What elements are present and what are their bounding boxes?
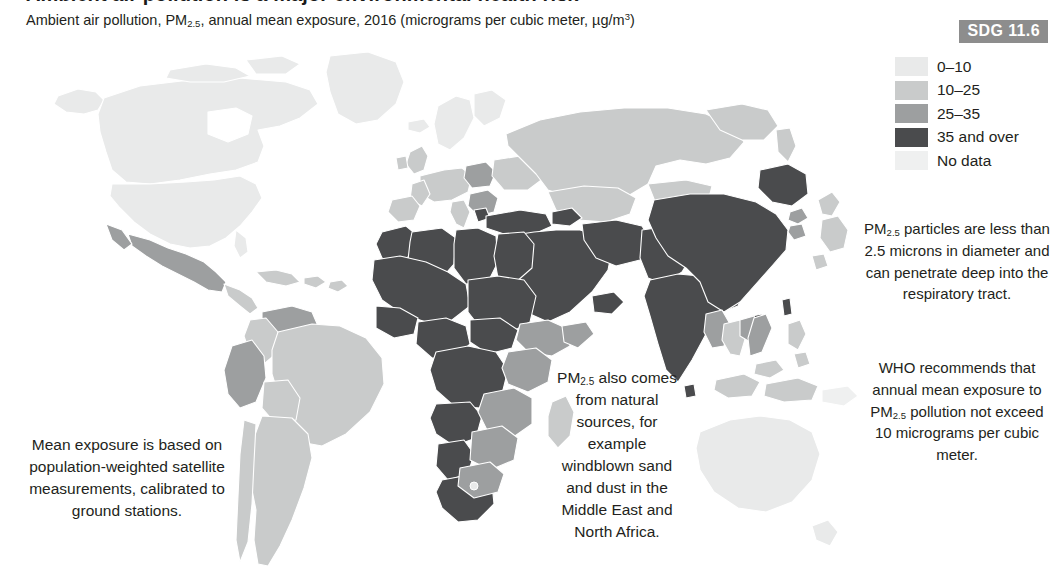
annotation-center-before: PM bbox=[557, 369, 580, 386]
legend-label-25-35: 25–35 bbox=[937, 105, 980, 123]
infographic-page: Ambient air pollution is a major environ… bbox=[0, 0, 1054, 578]
note-pm25-particles: PM2.5 particles are less than 2.5 micron… bbox=[860, 218, 1054, 305]
annotation-center-after: also comes from natural sources, for exa… bbox=[561, 369, 677, 540]
legend-label-10-25: 10–25 bbox=[937, 81, 980, 99]
region-southeast-asia bbox=[704, 310, 858, 406]
annotation-left: Mean exposure is based on population-wei… bbox=[14, 434, 240, 522]
world-choropleth-map[interactable]: Mean exposure is based on population-wei… bbox=[0, 34, 860, 578]
note2-subscript: 2.5 bbox=[893, 410, 906, 421]
note-who-recommendation: WHO recommends that annual mean exposure… bbox=[860, 357, 1054, 466]
legend-item-0-10[interactable]: 0–10 bbox=[895, 55, 1019, 79]
legend-item-25-35[interactable]: 25–35 bbox=[895, 102, 1019, 126]
note1-subscript: 2.5 bbox=[887, 227, 900, 238]
note1-before: PM bbox=[864, 220, 887, 237]
legend-label-0-10: 0–10 bbox=[937, 58, 971, 76]
legend-item-35-and-over[interactable]: 35 and over bbox=[895, 126, 1019, 150]
right-rail: SDG 11.6 0–10 10–25 25–35 35 and over No… bbox=[860, 0, 1054, 578]
map-legend: 0–10 10–25 25–35 35 and over No data bbox=[895, 55, 1019, 173]
legend-label-no-data: No data bbox=[937, 152, 991, 170]
legend-swatch-35-and-over bbox=[895, 128, 928, 147]
legend-swatch-10-25 bbox=[895, 81, 928, 100]
subtitle-before: Ambient air pollution, PM bbox=[26, 12, 187, 28]
region-east-asia-other bbox=[788, 192, 848, 270]
page-headline: Ambient air pollution is a major environ… bbox=[26, 0, 579, 6]
subtitle-after: ) bbox=[630, 12, 635, 28]
sdg-badge: SDG 11.6 bbox=[959, 20, 1048, 43]
legend-item-10-25[interactable]: 10–25 bbox=[895, 79, 1019, 103]
annotation-center-subscript: 2.5 bbox=[580, 376, 594, 387]
region-south-america bbox=[224, 306, 384, 566]
subtitle-middle: , annual mean exposure, 2016 (micrograms… bbox=[200, 12, 624, 28]
region-oceania bbox=[696, 416, 838, 546]
legend-item-no-data[interactable]: No data bbox=[895, 149, 1019, 173]
page-subtitle: Ambient air pollution, PM2.5, annual mea… bbox=[26, 11, 635, 29]
legend-swatch-0-10 bbox=[895, 57, 928, 76]
legend-swatch-25-35 bbox=[895, 104, 928, 123]
legend-label-35-and-over: 35 and over bbox=[937, 128, 1019, 146]
subtitle-subscript: 2.5 bbox=[187, 18, 200, 29]
legend-swatch-no-data bbox=[895, 151, 928, 170]
annotation-center: PM2.5 also comes from natural sources, f… bbox=[556, 367, 678, 543]
